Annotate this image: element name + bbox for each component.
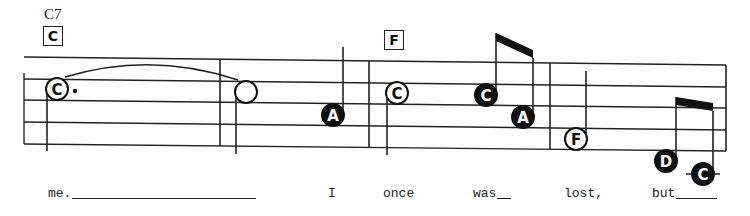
lyric-syllable: once bbox=[383, 186, 414, 201]
note-letter: C bbox=[51, 81, 62, 99]
note-letter: C bbox=[697, 166, 708, 184]
tie-curve bbox=[65, 65, 238, 80]
open-notehead bbox=[235, 81, 257, 103]
lyric-extender-line bbox=[676, 198, 717, 199]
lyric-extender-line bbox=[72, 198, 256, 199]
note-letter: A bbox=[517, 109, 529, 127]
lyric-syllable: lost, bbox=[564, 186, 603, 201]
lyric-extender-line bbox=[497, 198, 511, 199]
lyric-syllable: me. bbox=[48, 186, 71, 201]
staff-line bbox=[24, 57, 726, 65]
eighth-beam bbox=[496, 33, 533, 58]
note-letter: C bbox=[480, 87, 491, 105]
staff-line bbox=[24, 100, 726, 108]
note-letter: A bbox=[327, 107, 339, 125]
lyric-syllable: was bbox=[473, 186, 496, 201]
note-letter: D bbox=[660, 153, 672, 171]
music-staff: CACCAFDC bbox=[0, 0, 750, 216]
lyric-syllable: but bbox=[652, 186, 675, 201]
staff-line bbox=[24, 122, 726, 130]
note-letter: C bbox=[391, 85, 402, 103]
note-letter: F bbox=[571, 131, 581, 149]
chord-box: F bbox=[384, 30, 404, 50]
augmentation-dot bbox=[73, 89, 77, 93]
staff-line bbox=[24, 79, 726, 87]
chord-box: C bbox=[43, 26, 63, 46]
eighth-beam bbox=[676, 97, 713, 111]
lyric-syllable: I bbox=[328, 186, 336, 201]
chord-symbol: C7 bbox=[44, 6, 62, 23]
staff-line bbox=[24, 144, 726, 151]
